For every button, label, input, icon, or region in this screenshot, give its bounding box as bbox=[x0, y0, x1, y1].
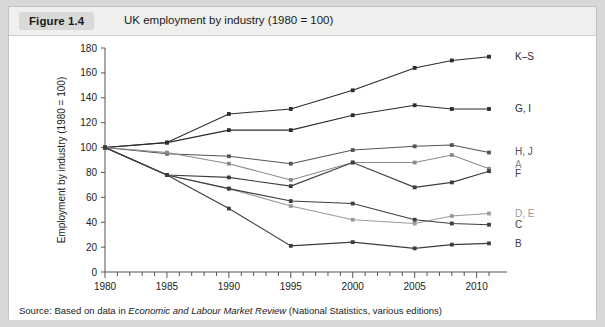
data-point bbox=[289, 244, 293, 248]
y-axis-tick-label: 180 bbox=[80, 43, 97, 54]
data-point bbox=[487, 223, 491, 227]
data-point bbox=[227, 187, 231, 191]
y-axis-tick-label: 60 bbox=[86, 192, 98, 203]
data-point bbox=[103, 146, 107, 150]
x-axis-tick-label: 2010 bbox=[465, 281, 488, 292]
data-point bbox=[487, 241, 491, 245]
y-axis-tick-label: 100 bbox=[80, 142, 97, 153]
y-axis-tick-label: 120 bbox=[80, 117, 97, 128]
y-axis-tick-label: 40 bbox=[86, 217, 98, 228]
data-point bbox=[165, 151, 169, 155]
data-point bbox=[165, 173, 169, 177]
series-label-c: C bbox=[515, 219, 522, 230]
data-point bbox=[351, 161, 355, 165]
series-line-a bbox=[105, 148, 489, 180]
figure-header: Figure 1.4 UK employment by industry (19… bbox=[9, 7, 596, 36]
data-point bbox=[289, 199, 293, 203]
data-point bbox=[413, 218, 417, 222]
data-point bbox=[289, 178, 293, 182]
figure-title: UK employment by industry (1980 = 100) bbox=[124, 14, 333, 26]
series-line-k–s bbox=[105, 57, 489, 148]
y-axis-tick-label: 20 bbox=[86, 242, 98, 253]
data-point bbox=[487, 212, 491, 216]
data-point bbox=[227, 207, 231, 211]
data-point bbox=[351, 148, 355, 152]
data-point bbox=[413, 144, 417, 148]
series-label-f: F bbox=[515, 168, 521, 179]
data-point bbox=[487, 151, 491, 155]
data-point bbox=[450, 222, 454, 226]
series-line-h-j bbox=[105, 145, 489, 164]
x-axis-tick-label: 1985 bbox=[156, 281, 179, 292]
data-point bbox=[289, 107, 293, 111]
data-point bbox=[450, 153, 454, 157]
series-label-k–s: K–S bbox=[515, 51, 534, 62]
data-point bbox=[165, 141, 169, 145]
data-point bbox=[487, 169, 491, 173]
data-point bbox=[227, 154, 231, 158]
data-point bbox=[450, 214, 454, 218]
source-suffix: (National Statistics, various editions) bbox=[286, 305, 442, 316]
data-point bbox=[413, 103, 417, 107]
y-axis-tick-label: 0 bbox=[91, 267, 97, 278]
data-point bbox=[413, 222, 417, 226]
series-label-b: B bbox=[515, 238, 522, 249]
x-axis-tick-label: 1980 bbox=[94, 281, 117, 292]
data-point bbox=[450, 181, 454, 185]
data-point bbox=[227, 176, 231, 180]
data-point bbox=[227, 128, 231, 132]
data-point bbox=[351, 88, 355, 92]
data-point bbox=[487, 55, 491, 59]
series-label-h-j: H, J bbox=[515, 146, 533, 157]
figure-body: 0204060801001201401601801980198519901995… bbox=[9, 36, 596, 320]
y-axis-tick-label: 160 bbox=[80, 67, 97, 78]
series-label-d-e: D, E bbox=[515, 208, 535, 219]
y-axis-tick-label: 80 bbox=[86, 167, 98, 178]
data-point bbox=[413, 246, 417, 250]
data-point bbox=[289, 162, 293, 166]
y-axis-tick-label: 140 bbox=[80, 92, 97, 103]
data-point bbox=[289, 184, 293, 188]
series-line-g-i bbox=[105, 105, 489, 147]
data-point bbox=[450, 143, 454, 147]
figure-card: Figure 1.4 UK employment by industry (19… bbox=[8, 6, 597, 319]
data-point bbox=[351, 113, 355, 117]
x-axis-tick-label: 1995 bbox=[280, 281, 303, 292]
line-chart: 0204060801001201401601801980198519901995… bbox=[9, 36, 598, 298]
data-point bbox=[351, 218, 355, 222]
x-axis-tick-label: 2005 bbox=[404, 281, 427, 292]
data-point bbox=[351, 202, 355, 206]
data-point bbox=[413, 66, 417, 70]
source-prefix: Source: Based on data in bbox=[19, 305, 128, 316]
data-point bbox=[289, 128, 293, 132]
x-axis-tick-label: 2000 bbox=[342, 281, 365, 292]
data-point bbox=[413, 185, 417, 189]
data-point bbox=[227, 162, 231, 166]
series-label-g-i: G, I bbox=[515, 103, 531, 114]
data-point bbox=[450, 59, 454, 63]
data-point bbox=[487, 107, 491, 111]
data-point bbox=[413, 161, 417, 165]
data-point bbox=[351, 240, 355, 244]
y-axis-title: Employment by industry (1980 = 100) bbox=[56, 77, 67, 243]
data-point bbox=[450, 243, 454, 247]
source-caption: Source: Based on data in Economic and La… bbox=[19, 305, 442, 316]
data-point bbox=[289, 204, 293, 208]
x-axis-tick-label: 1990 bbox=[218, 281, 241, 292]
data-point bbox=[450, 107, 454, 111]
data-point bbox=[227, 112, 231, 116]
figure-number-badge: Figure 1.4 bbox=[19, 12, 94, 30]
source-italic-title: Economic and Labour Market Review bbox=[128, 305, 286, 316]
